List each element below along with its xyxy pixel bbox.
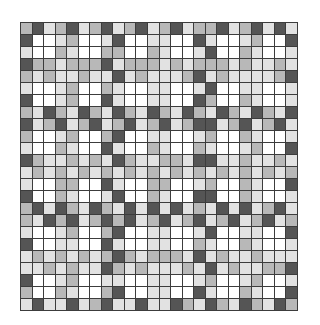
grid-cell [183, 179, 194, 190]
grid-cell [229, 155, 240, 166]
grid-cell [148, 251, 159, 262]
grid-cell [148, 83, 159, 94]
grid-cell [160, 203, 171, 214]
grid-cell [102, 83, 113, 94]
grid-cell [229, 95, 240, 106]
grid-cell [21, 203, 32, 214]
grid-cell [21, 287, 32, 298]
grid-cell [79, 179, 90, 190]
grid-cell [229, 71, 240, 82]
grid-cell [217, 167, 228, 178]
grid-cell [206, 83, 217, 94]
grid-cell [286, 227, 297, 238]
grid-cell [206, 155, 217, 166]
grid-cell [136, 287, 147, 298]
grid-cell [136, 155, 147, 166]
grid-cell [113, 275, 124, 286]
grid-cell [206, 239, 217, 250]
grid-cell [21, 131, 32, 142]
grid-cell [183, 167, 194, 178]
grid-cell [113, 83, 124, 94]
grid-cell [183, 95, 194, 106]
grid-cell [217, 143, 228, 154]
grid-cell [263, 215, 274, 226]
grid-cell [286, 155, 297, 166]
grid-cell [90, 107, 101, 118]
grid-cell [160, 263, 171, 274]
grid-cell [33, 179, 44, 190]
grid-cell [194, 59, 205, 70]
grid-cell [183, 203, 194, 214]
grid-cell [194, 215, 205, 226]
grid-cell [275, 59, 286, 70]
grid-cell [263, 83, 274, 94]
grid-cell [240, 263, 251, 274]
grid-cell [125, 167, 136, 178]
grid-cell [44, 215, 55, 226]
grid-cell [240, 191, 251, 202]
grid-cell [252, 59, 263, 70]
grid-cell [56, 23, 67, 34]
grid-cell [286, 179, 297, 190]
grid-cell [183, 287, 194, 298]
grid-cell [67, 71, 78, 82]
grid-cell [240, 179, 251, 190]
grid-cell [263, 35, 274, 46]
grid-cell [79, 155, 90, 166]
grid-cell [102, 131, 113, 142]
grid-cell [286, 287, 297, 298]
grid-cell [21, 215, 32, 226]
grid-cell [56, 47, 67, 58]
grid-cell [286, 23, 297, 34]
grid-cell [102, 191, 113, 202]
grid-cell [171, 119, 182, 130]
grid-cell [275, 263, 286, 274]
grid-cell [206, 299, 217, 310]
grid-cell [286, 71, 297, 82]
grid-cell [67, 107, 78, 118]
grid-cell [275, 239, 286, 250]
grid-cell [136, 83, 147, 94]
grid-cell [160, 95, 171, 106]
grid-cell [90, 95, 101, 106]
grid-cell [194, 35, 205, 46]
grid-cell [67, 227, 78, 238]
grid-cell [217, 191, 228, 202]
grid-cell [171, 179, 182, 190]
grid-cell [206, 47, 217, 58]
grid-cell [275, 251, 286, 262]
grid-cell [136, 143, 147, 154]
grid-cell [67, 23, 78, 34]
grid-cell [102, 263, 113, 274]
grid-cell [56, 275, 67, 286]
grid-cell [21, 59, 32, 70]
grid-cell [21, 47, 32, 58]
grid-cell [286, 167, 297, 178]
grid-cell [275, 227, 286, 238]
grid-cell [240, 251, 251, 262]
grid-cell [136, 35, 147, 46]
grid-cell [79, 263, 90, 274]
grid-cell [229, 263, 240, 274]
grid-cell [90, 155, 101, 166]
grid-cell [125, 119, 136, 130]
grid-cell [136, 179, 147, 190]
grid-cell [194, 83, 205, 94]
grid-cell [33, 107, 44, 118]
grid-cell [263, 119, 274, 130]
grid-cell [148, 23, 159, 34]
grid-cell [56, 227, 67, 238]
grid-cell [113, 227, 124, 238]
grid-cell [217, 59, 228, 70]
grid-cell [217, 299, 228, 310]
grid-cell [229, 299, 240, 310]
grid-cell [171, 263, 182, 274]
grid-cell [240, 47, 251, 58]
grid-cell [275, 143, 286, 154]
grid-cell [171, 95, 182, 106]
grid-cell [286, 95, 297, 106]
grid-cell [125, 179, 136, 190]
grid-cell [44, 239, 55, 250]
grid-cell [171, 287, 182, 298]
grid-cell [275, 107, 286, 118]
